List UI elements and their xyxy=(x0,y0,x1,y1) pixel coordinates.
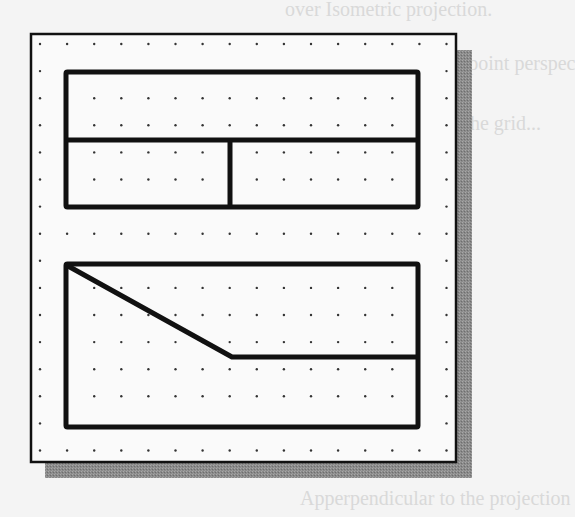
grid-dot xyxy=(418,43,420,45)
grid-dot xyxy=(174,341,176,343)
grid-dot xyxy=(201,43,203,45)
grid-dot xyxy=(364,151,366,153)
grid-dot xyxy=(39,422,41,424)
grid-dot xyxy=(39,368,41,370)
grid-dot xyxy=(256,449,258,451)
grid-dot xyxy=(256,368,258,370)
grid-dot xyxy=(93,97,95,99)
grid-dot xyxy=(256,341,258,343)
grid-dot xyxy=(391,124,393,126)
grid-dot xyxy=(229,341,231,343)
grid-dot xyxy=(310,178,312,180)
grid-dot xyxy=(93,124,95,126)
grid-dot xyxy=(39,70,41,72)
grid-dot xyxy=(256,43,258,45)
grid-dot xyxy=(174,233,176,235)
grid-dot xyxy=(39,341,41,343)
grid-dot xyxy=(39,287,41,289)
grid-dot xyxy=(39,124,41,126)
grid-dot xyxy=(201,368,203,370)
grid-dot xyxy=(337,314,339,316)
grid-dot xyxy=(391,287,393,289)
grid-dot xyxy=(445,233,447,235)
grid-dot xyxy=(174,151,176,153)
grid-dot xyxy=(256,395,258,397)
grid-dot xyxy=(391,395,393,397)
grid-dot xyxy=(66,233,68,235)
grid-dot xyxy=(120,287,122,289)
grid-dot xyxy=(229,124,231,126)
grid-dot xyxy=(39,205,41,207)
grid-dot xyxy=(310,314,312,316)
grid-dot xyxy=(283,233,285,235)
grid-dot xyxy=(283,43,285,45)
grid-dot xyxy=(174,287,176,289)
grid-dot xyxy=(93,287,95,289)
grid-dot xyxy=(147,287,149,289)
grid-dot xyxy=(147,43,149,45)
grid-dot xyxy=(256,124,258,126)
grid-dot xyxy=(93,368,95,370)
grid-dot xyxy=(201,449,203,451)
grid-dot xyxy=(364,368,366,370)
grid-dot xyxy=(310,395,312,397)
grid-dot xyxy=(364,449,366,451)
grid-dot xyxy=(39,97,41,99)
grid-dot xyxy=(364,178,366,180)
grid-dot xyxy=(337,233,339,235)
grid-dot xyxy=(283,395,285,397)
grid-dot xyxy=(310,341,312,343)
grid-dot xyxy=(283,314,285,316)
grid-dot xyxy=(147,341,149,343)
grid-dot xyxy=(93,314,95,316)
grid-dot xyxy=(120,233,122,235)
grid-dot xyxy=(229,287,231,289)
grid-dot xyxy=(201,287,203,289)
grid-dot xyxy=(310,124,312,126)
grid-dot xyxy=(39,178,41,180)
grid-dot xyxy=(445,314,447,316)
grid-dot xyxy=(147,178,149,180)
grid-dot xyxy=(445,422,447,424)
grid-dot xyxy=(310,233,312,235)
grid-dot xyxy=(93,233,95,235)
grid-dot xyxy=(120,178,122,180)
grid-dot xyxy=(337,395,339,397)
grid-dot xyxy=(337,97,339,99)
grid-dot xyxy=(93,151,95,153)
grid-dot xyxy=(174,124,176,126)
grid-dot xyxy=(93,178,95,180)
grid-dot xyxy=(445,368,447,370)
grid-dot xyxy=(174,97,176,99)
grid-dot xyxy=(418,449,420,451)
grid-dot xyxy=(201,151,203,153)
grid-dot xyxy=(391,233,393,235)
grid-dot xyxy=(201,395,203,397)
grid-dot xyxy=(147,233,149,235)
grid-dot xyxy=(229,368,231,370)
grid-dot xyxy=(445,260,447,262)
grid-dot xyxy=(337,124,339,126)
grid-dot xyxy=(445,97,447,99)
grid-dot xyxy=(229,97,231,99)
grid-dot xyxy=(391,314,393,316)
grid-dot xyxy=(283,341,285,343)
grid-dot xyxy=(120,368,122,370)
grid-dot xyxy=(256,151,258,153)
grid-dot xyxy=(418,233,420,235)
grid-dot xyxy=(283,151,285,153)
grid-dot xyxy=(39,449,41,451)
grid-dot xyxy=(283,178,285,180)
grid-dot xyxy=(229,43,231,45)
grid-dot xyxy=(147,449,149,451)
grid-dot xyxy=(337,341,339,343)
grid-dot xyxy=(147,151,149,153)
grid-dot xyxy=(445,449,447,451)
grid-dot xyxy=(337,287,339,289)
grid-dot xyxy=(445,395,447,397)
grid-dot xyxy=(174,178,176,180)
grid-dot xyxy=(66,43,68,45)
grid-dot xyxy=(120,151,122,153)
grid-dot xyxy=(445,205,447,207)
